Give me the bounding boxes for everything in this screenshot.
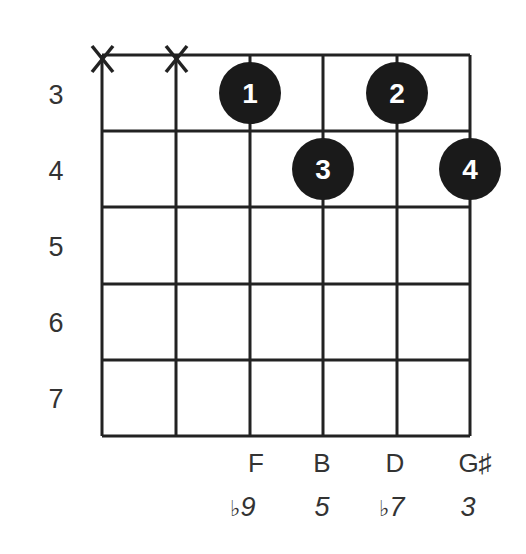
- note-label: B: [297, 448, 347, 479]
- fret-number: 7: [44, 384, 68, 415]
- interval-label: ♭9: [213, 492, 273, 523]
- finger-label: 3: [315, 154, 331, 185]
- note-label: F: [231, 448, 281, 479]
- finger-label: 1: [242, 78, 258, 109]
- muted-string-markers: [92, 46, 187, 72]
- interval-label: 5: [292, 492, 352, 523]
- fret-number: 4: [44, 156, 68, 187]
- interval-label: ♭7: [362, 492, 422, 523]
- fret-number: 3: [44, 80, 68, 111]
- note-label: D: [370, 448, 420, 479]
- fret-number: 6: [44, 308, 68, 339]
- note-label: G♯: [450, 448, 500, 479]
- fret-number: 5: [44, 232, 68, 263]
- finger-label: 2: [389, 78, 405, 109]
- interval-label: 3: [438, 492, 498, 523]
- finger-label: 4: [462, 154, 478, 185]
